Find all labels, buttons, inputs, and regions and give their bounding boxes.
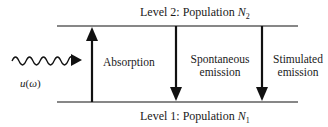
spontaneous-emission-arrow-icon: [170, 26, 182, 101]
incident-wave-label: u(ω): [20, 77, 41, 90]
stimulated-emission-arrow-icon: [256, 26, 268, 101]
absorption-arrow-icon: [86, 27, 98, 102]
stimulated-emission-label: Stimulated emission: [268, 53, 328, 79]
photon-wave-icon: [12, 54, 82, 66]
level-1-label: Level 1: Population N1: [140, 110, 250, 127]
absorption-label: Absorption: [103, 56, 155, 69]
level-2-label: Level 2: Population N2: [140, 6, 250, 23]
spontaneous-emission-label: Spontaneous emission: [184, 53, 256, 79]
